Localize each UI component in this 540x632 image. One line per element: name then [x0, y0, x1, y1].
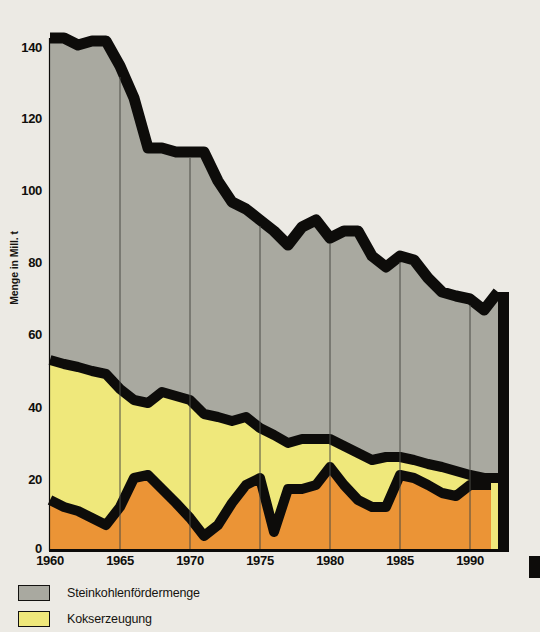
legend-item-kokserzeugung: Kokserzeugung	[18, 608, 152, 630]
y-tick-80: 80	[0, 255, 42, 270]
legend-swatch-yellow-icon	[18, 611, 50, 627]
chart-page: Menge in Mill. t 140 120 100 80 60 40 20…	[0, 0, 540, 632]
chart-plot-area: Menge in Mill. t 140 120 100 80 60 40 20…	[0, 0, 540, 570]
area-chart-svg	[0, 0, 540, 570]
y-tick-120: 120	[0, 111, 42, 126]
legend-label-kokserzeugung: Kokserzeugung	[67, 612, 152, 626]
x-tick-1970: 1970	[160, 553, 220, 568]
y-tick-60: 60	[0, 327, 42, 342]
x-tick-1985: 1985	[370, 553, 430, 568]
y-tick-100: 100	[0, 183, 42, 198]
y-tick-20: 20	[0, 472, 42, 487]
x-tick-1960: 1960	[20, 553, 80, 568]
legend-item-steinkohlenfoerdermenge: Steinkohlenfördermenge	[18, 582, 200, 604]
y-tick-140: 140	[0, 40, 42, 55]
page-edge-marker	[529, 556, 540, 578]
y-tick-40: 40	[0, 400, 42, 415]
x-tick-1990: 1990	[440, 553, 500, 568]
x-tick-1965: 1965	[90, 553, 150, 568]
legend-swatch-grey-icon	[18, 585, 50, 601]
x-tick-1980: 1980	[300, 553, 360, 568]
legend-label-steinkohlenfoerdermenge: Steinkohlenfördermenge	[67, 586, 200, 600]
chart-legend: Steinkohlenfördermenge Kokserzeugung	[0, 576, 540, 632]
x-tick-1975: 1975	[230, 553, 290, 568]
